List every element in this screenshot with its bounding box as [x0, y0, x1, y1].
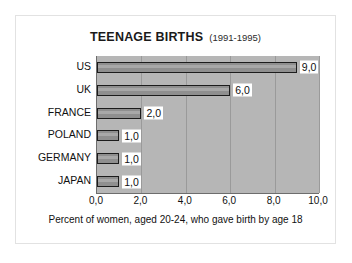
- value-label: 2,0: [144, 107, 163, 120]
- value-label: 1,0: [122, 129, 141, 142]
- bar-highlight: [98, 111, 140, 114]
- x-tick-label: 10,0: [308, 195, 327, 206]
- value-label: 9,0: [300, 61, 319, 74]
- chart-subtitle: (1991-1995): [209, 32, 261, 43]
- chart-card: TEENAGE BIRTHS(1991-1995) US9,0UK6,0FRAN…: [15, 15, 336, 244]
- bar-row: JAPAN1,0: [97, 176, 319, 187]
- value-label: 1,0: [122, 152, 141, 165]
- bar-highlight: [98, 179, 118, 182]
- plot-area: US9,0UK6,0FRANCE2,0POLAND1,0GERMANY1,0JA…: [96, 56, 319, 194]
- bar[interactable]: [97, 153, 119, 164]
- category-label: US: [76, 61, 91, 72]
- bar-row: FRANCE2,0: [97, 108, 319, 119]
- bar-row: GERMANY1,0: [97, 153, 319, 164]
- bar-highlight: [98, 88, 229, 91]
- x-axis-label: Percent of women, aged 20-24, who gave b…: [16, 214, 335, 225]
- gridline: [319, 56, 320, 193]
- x-axis: 0,02,04,06,08,010,0: [96, 195, 318, 209]
- x-tick-label: 6,0: [222, 195, 236, 206]
- bar[interactable]: [97, 62, 297, 73]
- bar[interactable]: [97, 130, 119, 141]
- chart-title-row: TEENAGE BIRTHS(1991-1995): [16, 27, 335, 45]
- bar-row: UK6,0: [97, 85, 319, 96]
- category-label: POLAND: [48, 129, 91, 140]
- bar-row: POLAND1,0: [97, 130, 319, 141]
- x-tick-label: 4,0: [178, 195, 192, 206]
- gridline: [186, 56, 187, 193]
- bar[interactable]: [97, 176, 119, 187]
- bar-row: US9,0: [97, 62, 319, 73]
- value-label: 6,0: [233, 84, 252, 97]
- x-tick-label: 8,0: [267, 195, 281, 206]
- bar-highlight: [98, 156, 118, 159]
- gridline: [230, 56, 231, 193]
- category-label: FRANCE: [48, 107, 91, 118]
- page-title: TEENAGE BIRTHS: [90, 30, 203, 44]
- value-label: 1,0: [122, 175, 141, 188]
- bar[interactable]: [97, 108, 141, 119]
- x-tick-label: 0,0: [89, 195, 103, 206]
- category-label: JAPAN: [58, 175, 91, 186]
- category-label: GERMANY: [38, 152, 91, 163]
- bar-highlight: [98, 65, 296, 68]
- gridline: [141, 56, 142, 193]
- bar-highlight: [98, 133, 118, 136]
- x-tick-label: 2,0: [133, 195, 147, 206]
- bar[interactable]: [97, 85, 230, 96]
- gridline: [275, 56, 276, 193]
- category-label: UK: [76, 84, 91, 95]
